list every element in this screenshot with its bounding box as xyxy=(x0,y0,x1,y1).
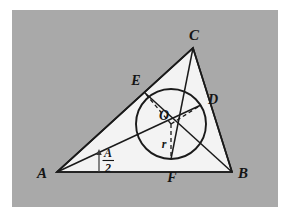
geometry-diagram: A 2 A B C D E F O r xyxy=(0,0,290,223)
label-center-o: O xyxy=(159,108,169,123)
label-point-f: F xyxy=(166,170,177,185)
label-vertex-a: A xyxy=(36,165,47,181)
label-point-d: D xyxy=(207,92,218,107)
angle-label-denominator: 2 xyxy=(104,161,111,175)
label-point-e: E xyxy=(130,73,140,88)
label-vertex-c: C xyxy=(189,27,200,43)
label-vertex-b: B xyxy=(237,165,248,181)
figure-root: A 2 A B C D E F O r xyxy=(0,0,290,223)
label-radius-r: r xyxy=(162,137,167,151)
angle-label-numerator: A xyxy=(103,146,112,160)
